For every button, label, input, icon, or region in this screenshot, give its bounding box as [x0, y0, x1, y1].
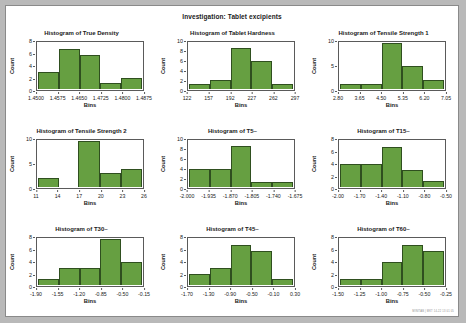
y-tick-label: 8	[331, 136, 334, 142]
watermark-text: MINITAB | MKT 14-22 13 01 05	[412, 310, 454, 313]
x-axis-ticks: -2.00-1.70-1.40-1.10-0.80-0.50	[338, 190, 446, 199]
y-axis-label: Count	[310, 237, 319, 287]
histogram-bar	[80, 55, 101, 90]
histogram-panel: Histogram of T45~Count02468-1.70-1.30-0.…	[157, 218, 308, 316]
histogram-bar	[402, 245, 423, 285]
y-tick-label: 4	[331, 161, 334, 167]
y-tick-label: 8	[29, 234, 32, 240]
y-tick-label: 5	[29, 161, 32, 167]
histogram-bar	[423, 80, 444, 89]
y-axis-label: Count	[8, 139, 17, 189]
y-axis-label-text: Count	[10, 254, 16, 270]
histogram-bar	[402, 170, 423, 187]
plot-frame	[187, 237, 295, 287]
x-tick-label: 3.65	[355, 95, 365, 101]
y-tick-label: 6	[180, 58, 183, 64]
histogram-bar	[382, 262, 403, 285]
y-tick-label: 8	[180, 234, 183, 240]
y-tick-label: 0	[29, 88, 32, 94]
x-tick-label: 192	[226, 95, 235, 101]
y-tick-label: 4	[180, 166, 183, 172]
histogram-panel: Histogram of T60~Count02468-1.50-1.25-1.…	[308, 218, 459, 316]
y-tick-label: 8	[180, 48, 183, 54]
plot-area	[187, 139, 295, 189]
y-tick-label: 4	[331, 259, 334, 265]
y-tick-label: 8	[180, 146, 183, 152]
histogram-bar	[231, 146, 252, 187]
y-axis-label-text: Count	[312, 58, 318, 74]
plot-frame	[338, 139, 446, 189]
histogram-bar	[361, 84, 382, 89]
y-tick-label: 0	[29, 284, 32, 290]
chart-title: Histogram of Tensile Strength 1	[308, 30, 459, 36]
chart-title: Histogram of T60~	[308, 226, 459, 232]
y-tick-label: 6	[29, 247, 32, 253]
y-tick-label: 0	[29, 186, 32, 192]
x-axis-label: Bins	[338, 298, 446, 304]
histogram-grid: Histogram of True DensityCount024681.450…	[6, 22, 459, 316]
y-axis-ticks: 0510	[17, 139, 35, 189]
x-tick-label: 1.4725	[93, 95, 109, 101]
plot-area	[187, 41, 295, 91]
bar-series	[340, 239, 444, 285]
x-tick-label: 1.4650	[71, 95, 87, 101]
histogram-bar	[100, 83, 121, 89]
histogram-bar	[340, 279, 361, 285]
x-tick-label: 20	[98, 193, 104, 199]
plot-frame	[187, 139, 295, 189]
histogram-bar	[423, 181, 444, 187]
histogram-bar	[272, 84, 293, 89]
y-axis-label-text: Count	[10, 156, 16, 172]
x-tick-label: 4.50	[376, 95, 386, 101]
y-tick-label: 4	[180, 259, 183, 265]
x-tick-label: -1.675	[288, 193, 303, 199]
y-axis-ticks: 02468	[168, 237, 186, 287]
x-tick-label: -0.50	[418, 291, 430, 297]
y-axis-ticks: 02468	[319, 237, 337, 287]
x-tick-label: -1.50	[332, 291, 344, 297]
y-tick-label: 2	[180, 176, 183, 182]
y-axis-label-text: Count	[312, 156, 318, 172]
chart-title: Histogram of T15~	[308, 128, 459, 134]
x-tick-label: 1.4875	[136, 95, 152, 101]
histogram-bar	[340, 164, 361, 187]
x-tick-label: -1.20	[73, 291, 85, 297]
y-axis-ticks: 0510	[319, 41, 337, 91]
x-axis-label: Bins	[187, 298, 295, 304]
plot-area	[36, 139, 144, 189]
x-tick-label: -2.00	[332, 193, 344, 199]
y-tick-label: 0	[180, 284, 183, 290]
x-tick-label: 5.35	[398, 95, 408, 101]
y-tick-label: 6	[29, 51, 32, 57]
x-tick-label: 26	[141, 193, 147, 199]
page-title: Investigation: Tablet excipients	[6, 13, 458, 20]
y-axis-label-text: Count	[312, 254, 318, 270]
x-axis-label: Bins	[36, 200, 144, 206]
y-tick-label: 0	[180, 88, 183, 94]
plot-frame	[338, 237, 446, 287]
plot-area	[338, 41, 446, 91]
histogram-bar	[59, 49, 80, 89]
histogram-panel: Histogram of Tensile Strength 1Count0510…	[308, 22, 459, 120]
y-axis-label-text: Count	[161, 58, 167, 74]
histogram-panel: Histogram of T15~Count02468-2.00-1.70-1.…	[308, 120, 459, 218]
y-tick-label: 6	[180, 247, 183, 253]
x-tick-label: 23	[120, 193, 126, 199]
plot-frame	[187, 41, 295, 91]
report-page: Investigation: Tablet excipients Histogr…	[5, 5, 459, 317]
chart-title: Histogram of T5~	[157, 128, 308, 134]
x-axis-label: Bins	[36, 298, 144, 304]
y-tick-label: 6	[331, 247, 334, 253]
histogram-bar	[382, 147, 403, 187]
bar-series	[340, 43, 444, 89]
y-tick-label: 8	[29, 38, 32, 44]
x-tick-label: -1.30	[203, 291, 215, 297]
histogram-bar	[189, 274, 210, 286]
chart-title: Histogram of T30~	[6, 226, 157, 232]
y-axis-ticks: 0246810	[168, 139, 186, 189]
histogram-bar	[272, 182, 293, 187]
bar-series	[189, 43, 293, 89]
histogram-bar	[231, 48, 252, 89]
x-tick-label: -1.805	[244, 193, 259, 199]
y-axis-label: Count	[8, 41, 17, 91]
